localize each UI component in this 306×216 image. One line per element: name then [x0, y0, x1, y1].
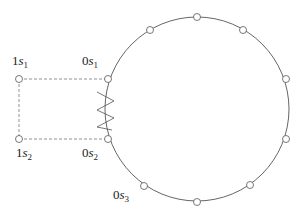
label-1s2: 1s2 [16, 145, 32, 162]
ring-node [247, 182, 254, 189]
node-0s1 [105, 76, 112, 83]
ring-node [194, 199, 201, 206]
node-1s1 [16, 76, 23, 83]
label-0s2: 0s2 [82, 145, 98, 162]
ring-node [283, 136, 290, 143]
node-0s2 [105, 136, 112, 143]
ring-node [283, 76, 290, 83]
dashed-connector [19, 79, 107, 139]
label-1s1: 1s1 [12, 53, 28, 70]
ring-node [147, 27, 154, 34]
label-0s1: 0s1 [82, 53, 98, 70]
ring [105, 17, 289, 201]
node-1s2 [16, 136, 23, 143]
node-0s3 [141, 183, 148, 190]
ring-diagram [0, 0, 306, 216]
ring-node [194, 14, 201, 21]
label-0s3: 0s3 [113, 187, 129, 204]
ring-node [240, 27, 247, 34]
